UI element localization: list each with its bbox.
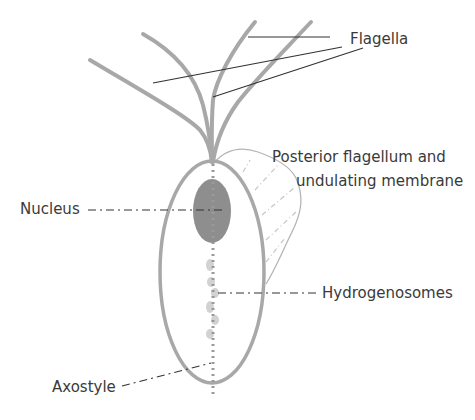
- label-posterior-flagellum-line2: undulating membrane: [296, 172, 463, 190]
- axostyle-leader: [122, 363, 211, 386]
- label-nucleus: Nucleus: [20, 200, 80, 218]
- flagella-leader-3: [213, 48, 363, 97]
- label-posterior-flagellum-line1: Posterior flagellum and: [272, 148, 446, 166]
- label-flagella: Flagella: [350, 30, 408, 48]
- label-axostyle: Axostyle: [52, 378, 116, 396]
- trichomonas-diagram: Flagella Posterior flagellum and undulat…: [0, 0, 475, 420]
- label-hydrogenosomes: Hydrogenosomes: [322, 284, 453, 302]
- flagella: [90, 22, 311, 162]
